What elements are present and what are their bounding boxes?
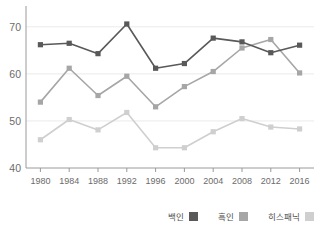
data-point-marker [268, 50, 273, 55]
legend-label-hispanic: 히스패닉 [268, 210, 300, 222]
legend-label-baekin: 백인 [168, 210, 184, 222]
series-line [40, 24, 299, 68]
x-tick-label: 1980 [30, 176, 50, 186]
data-point-marker [67, 66, 72, 71]
data-point-marker [38, 42, 43, 47]
x-tick-labels: 1980198419881992199620002004200820122016 [30, 176, 309, 186]
legend-item-baekin[interactable]: 백인 [168, 210, 198, 222]
x-tick-label: 2012 [261, 176, 281, 186]
y-tick-label: 70 [9, 21, 21, 33]
y-tick-label: 50 [9, 115, 21, 127]
data-point-marker [297, 70, 302, 75]
data-point-marker [95, 127, 100, 132]
x-tick-label: 2000 [174, 176, 194, 186]
y-tick-labels: 40506070 [9, 21, 21, 174]
chart-svg: 40506070 1980198419881992199620002004200… [0, 0, 322, 196]
data-point-marker [95, 51, 100, 56]
data-point-marker [124, 110, 129, 115]
x-tick-label: 2004 [203, 176, 223, 186]
data-point-marker [268, 124, 273, 129]
x-tick-label: 1988 [88, 176, 108, 186]
data-point-marker [297, 43, 302, 48]
y-tick-label: 40 [9, 162, 21, 174]
chart-legend: 백인 흑인 히스패닉 [0, 198, 322, 234]
x-tick-label: 1996 [146, 176, 166, 186]
data-point-marker [153, 104, 158, 109]
data-point-marker [211, 36, 216, 41]
data-point-marker [211, 129, 216, 134]
x-tick-label: 2008 [232, 176, 252, 186]
x-tick-label: 1984 [59, 176, 79, 186]
data-point-marker [182, 84, 187, 89]
data-point-marker [182, 145, 187, 150]
series-line [40, 112, 299, 147]
line-chart: 40506070 1980198419881992199620002004200… [0, 0, 322, 234]
x-tick-marks [40, 168, 299, 172]
data-point-marker [153, 145, 158, 150]
legend-item-hispanic[interactable]: 히스패닉 [268, 210, 314, 222]
series-markers [38, 21, 302, 150]
data-point-marker [38, 100, 43, 105]
data-point-marker [182, 61, 187, 66]
y-tick-label: 60 [9, 68, 21, 80]
x-tick-label: 2016 [290, 176, 310, 186]
data-point-marker [239, 45, 244, 50]
legend-swatch-heugin [239, 212, 248, 221]
data-point-marker [124, 74, 129, 79]
data-point-marker [297, 126, 302, 131]
data-point-marker [153, 66, 158, 71]
legend-item-heugin[interactable]: 흑인 [218, 210, 248, 222]
data-point-marker [268, 37, 273, 42]
legend-label-heugin: 흑인 [218, 210, 234, 222]
data-point-marker [239, 39, 244, 44]
data-point-marker [67, 117, 72, 122]
series-lines [40, 24, 299, 148]
data-point-marker [239, 116, 244, 121]
plot-area: 40506070 1980198419881992199620002004200… [0, 0, 322, 196]
data-point-marker [38, 137, 43, 142]
data-point-marker [67, 41, 72, 46]
data-point-marker [95, 93, 100, 98]
data-point-marker [124, 21, 129, 26]
legend-swatch-baekin [189, 212, 198, 221]
x-tick-label: 1992 [117, 176, 137, 186]
data-point-marker [211, 69, 216, 74]
legend-swatch-hispanic [305, 212, 314, 221]
axis-lines [26, 6, 314, 168]
